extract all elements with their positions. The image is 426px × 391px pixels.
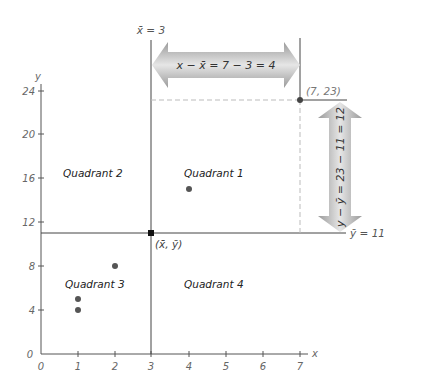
vertical-arrow-label: y − ȳ = 23 − 11 = 12 [334,107,347,228]
quadrant-3-label: Quadrant 3 [65,278,125,290]
y-tick-0: 0 [27,349,33,360]
y-tick-16: 16 [22,173,35,184]
x-tick-6: 6 [260,361,266,372]
centroid-marker [148,230,154,236]
data-point-1-5 [75,296,81,302]
y-tick-4: 4 [29,305,35,316]
x-axis-label: x [311,348,318,359]
horizontal-arrow-label: x − x̄ = 7 − 3 = 4 [176,59,276,72]
x-tick-5: 5 [223,361,229,372]
x-tick-0: 0 [38,361,44,372]
x-tick-3: 3 [148,361,154,372]
data-point-4-15 [186,186,192,192]
x-tick-1: 1 [75,361,81,372]
data-point-1-4 [75,307,81,313]
x-tick-7: 7 [297,361,304,372]
y-tick-24: 24 [22,86,35,97]
quadrant-4-label: Quadrant 4 [184,278,244,290]
mean-x-label: x̄ = 3 [136,24,165,36]
horizontal-deviation-arrow: x − x̄ = 7 − 3 = 4 [152,42,300,88]
highlight-point-label: (7, 23) [306,85,341,97]
deviation-scatter-diagram: 0 1 2 3 4 5 6 7 x 0 4 8 12 16 20 24 y x̄… [0,0,426,391]
y-tick-20: 20 [22,129,35,140]
y-axis-label: y [34,71,42,82]
y-tick-8: 8 [29,261,35,272]
y-tick-12: 12 [22,217,35,228]
x-tick-4: 4 [186,361,192,372]
data-point-7-23 [297,97,303,103]
x-tick-2: 2 [112,361,118,372]
quadrant-1-label: Quadrant 1 [184,167,244,179]
quadrant-2-label: Quadrant 2 [63,167,123,179]
mean-y-label: ȳ = 11 [349,227,385,239]
x-axis: 0 1 2 3 4 5 6 7 x [38,348,318,372]
y-axis: 0 4 8 12 16 20 24 y [22,71,44,360]
vertical-deviation-arrow: y − ȳ = 23 − 11 = 12 [318,102,362,232]
centroid-label: (x̄, ȳ) [155,238,182,250]
data-point-2-8 [112,263,118,269]
